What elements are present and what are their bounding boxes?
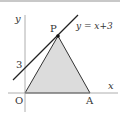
x-axis-label: x bbox=[108, 80, 114, 91]
origin-label: O bbox=[15, 95, 23, 106]
coordinate-diagram: y x O A P 3 y = x+3 bbox=[0, 0, 127, 119]
point-P bbox=[56, 34, 60, 38]
line-equation-label: y = x+3 bbox=[75, 21, 113, 31]
triangle-OPA bbox=[25, 36, 90, 93]
y-axis-label: y bbox=[14, 13, 21, 24]
point-A-label: A bbox=[85, 95, 94, 106]
point-P-label: P bbox=[50, 23, 57, 34]
y-tick-3: 3 bbox=[16, 59, 22, 70]
